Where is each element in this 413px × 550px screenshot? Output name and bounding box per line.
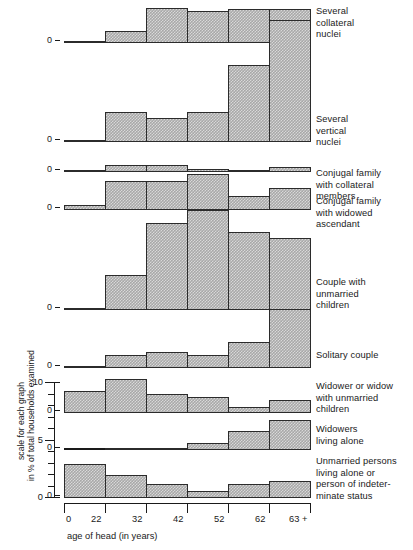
zero-tick-mark [55, 169, 60, 170]
zero-axis-label: 0 [42, 203, 52, 212]
y-scale-tick-label: 0 [13, 493, 43, 502]
caption-line: vertical [316, 126, 412, 138]
y-scale-tick [45, 440, 54, 441]
caption-line: ascendant [316, 219, 412, 231]
y-scale-cap-bottom [54, 497, 60, 498]
x-axis-tick-label: 63 + [289, 514, 307, 524]
y-scale-tick [48, 463, 54, 464]
histogram-bar [146, 484, 188, 498]
caption-line: Solitary couple [316, 350, 412, 362]
y-scale-tick [45, 382, 54, 383]
caption-line: living alone or [316, 468, 412, 480]
caption-line: living alone [316, 436, 412, 448]
x-axis-tick [64, 503, 65, 513]
caption-line: Conjugal family [316, 196, 412, 208]
panel-caption-widowers-living-alone: Widowersliving alone [316, 424, 412, 447]
zero-tick-mark [55, 307, 60, 308]
y-scale-tick [48, 405, 54, 406]
caption-line: children [316, 404, 412, 416]
histogram-bar [269, 481, 311, 498]
x-axis-tick [105, 503, 106, 513]
histogram-bar [105, 475, 147, 498]
zero-tick-mark [55, 40, 60, 41]
y-scale-tick [48, 486, 54, 487]
x-axis-tick [228, 503, 229, 513]
histogram-bar [187, 491, 229, 498]
caption-line: minate status [316, 491, 412, 503]
y-scale-cap-top [54, 382, 60, 383]
y-scale-tick-label: 5 [13, 436, 43, 445]
caption-line: person of indeter- [316, 479, 412, 491]
x-axis-tick [310, 503, 311, 513]
zero-axis-label: 0 [42, 361, 52, 370]
y-scale-tick [48, 428, 54, 429]
caption-line: collateral [316, 18, 412, 30]
zero-tick-mark [55, 207, 60, 208]
y-scale-tick [48, 394, 54, 395]
caption-line: Unmarried persons [316, 456, 412, 468]
caption-line: Couple with [316, 277, 412, 289]
y-scale-tick [48, 417, 54, 418]
panel-caption-several-collateral-nuclei: Severalcollateralnuclei [316, 6, 412, 41]
x-axis-tick-label: 42 [173, 514, 183, 524]
x-axis-tick-label: 52 [214, 514, 224, 524]
x-axis-tick-label: 0 [66, 514, 71, 524]
x-axis-tick-label: 32 [132, 514, 142, 524]
caption-line: Widower or widow [316, 381, 412, 393]
y-scale-tick [48, 474, 54, 475]
panel-plot-area [64, 368, 310, 498]
caption-line: Widowers [316, 424, 412, 436]
zero-axis-label: 0 [42, 303, 52, 312]
caption-line: unmarried [316, 289, 412, 301]
y-scale-tick-label: 10 [13, 378, 43, 387]
zero-axis-label: 0 [42, 36, 52, 45]
y-scale-tick [45, 497, 54, 498]
caption-line: with widowed [316, 208, 412, 220]
x-axis-tick [187, 503, 188, 513]
caption-line: with collateral [316, 180, 412, 192]
panel-caption-conjugal-family-widowed-ascendant: Conjugal familywith widowedascendant [316, 196, 412, 231]
caption-line: with unmarried [316, 393, 412, 405]
histogram-bar [228, 484, 270, 498]
caption-line: nuclei [316, 137, 412, 149]
y-scale-tick [48, 451, 54, 452]
zero-axis-label: 0 [42, 135, 52, 144]
panel-caption-widower-or-widow-unmarried-children: Widower or widowwith unmarriedchildren [316, 381, 412, 416]
x-axis-title: age of head (in years) [67, 531, 157, 542]
y-scale-ruler: scale for each graph in % of total house… [10, 375, 62, 507]
caption-line: Conjugal family [316, 168, 412, 180]
x-axis-tick [146, 503, 147, 513]
panel-caption-several-vertical-nuclei: Severalverticalnuclei [316, 114, 412, 149]
y-scale-axis-line [54, 382, 55, 498]
x-axis-tick-label: 62 [255, 514, 265, 524]
histogram-bar [64, 464, 106, 498]
panel-caption-solitary-couple: Solitary couple [316, 350, 412, 362]
caption-line: nuclei [316, 29, 412, 41]
panel-caption-unmarried-persons-living-alone: Unmarried personsliving alone orperson o… [316, 456, 412, 502]
x-axis-tick [269, 503, 270, 513]
zero-axis-label: 0 [42, 165, 52, 174]
panel-caption-couple-with-unmarried-children: Couple withunmarriedchildren [316, 277, 412, 312]
zero-tick-mark [55, 365, 60, 366]
caption-line: children [316, 300, 412, 312]
zero-tick-mark [55, 139, 60, 140]
caption-line: Several [316, 114, 412, 126]
caption-line: Several [316, 6, 412, 18]
x-axis-tick-label: 22 [91, 514, 101, 524]
